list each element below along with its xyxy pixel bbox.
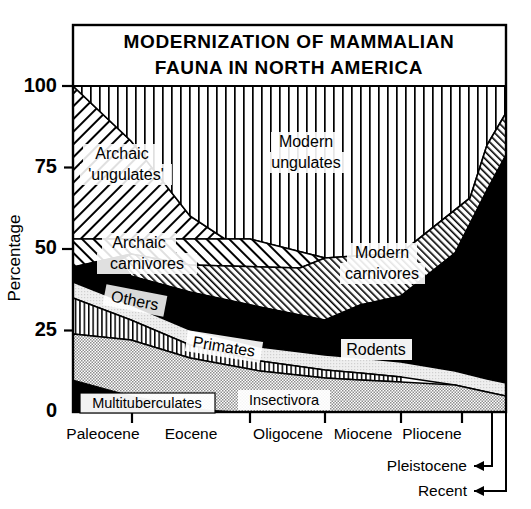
chart-title-line1: MODERNIZATION OF MAMMALIAN <box>124 31 455 52</box>
series-label-modern-carnivores-line1: Modern <box>355 244 409 261</box>
series-label-archaic-ungulates-line1: Archaic <box>95 145 148 162</box>
callout-label-pleistocene: Pleistocene <box>387 457 467 474</box>
callout-leader-recent <box>474 412 506 491</box>
label-modern-carnivores: Modern carnivores <box>340 243 425 284</box>
ytick-label-50: 50 <box>35 236 57 258</box>
left-arrow-icon-recent <box>474 486 484 496</box>
series-label-archaic-carnivores-line2: carnivores <box>110 255 184 272</box>
y-axis: 100 75 50 25 0 Percentage <box>5 74 73 421</box>
callout-leader-pleistocene <box>474 412 492 466</box>
series-label-rodents: Rodents <box>346 341 406 358</box>
x-axis: Paleocene Eocene Oligocene Miocene Plioc… <box>66 412 462 442</box>
series-label-modern-carnivores-line2: carnivores <box>345 265 419 282</box>
series-label-insectivora: Insectivora <box>249 392 320 408</box>
y-axis-title: Percentage <box>5 215 24 302</box>
series-label-archaic-ungulates-line2: 'ungulates' <box>88 166 164 183</box>
callout-pleistocene: Pleistocene <box>387 412 492 474</box>
ytick-label-25: 25 <box>35 318 57 340</box>
xtick-label-pliocene: Pliocene <box>402 425 461 442</box>
ytick-label-0: 0 <box>46 399 57 421</box>
xtick-label-oligocene: Oligocene <box>253 425 323 442</box>
figure-root: MODERNIZATION OF MAMMALIAN FAUNA IN NORT… <box>0 0 531 509</box>
label-rodents: Rodents <box>341 339 412 360</box>
xtick-label-miocene: Miocene <box>334 425 393 442</box>
series-label-modern-ungulates-line1: Modern <box>279 133 333 150</box>
chart-svg: MODERNIZATION OF MAMMALIAN FAUNA IN NORT… <box>0 0 531 509</box>
label-multituberculates: Multituberculates <box>80 393 215 413</box>
left-arrow-icon-pleistocene <box>474 461 484 471</box>
label-archaic-ungulates: Archaic 'ungulates' <box>80 144 172 185</box>
callout-label-recent: Recent <box>418 482 468 499</box>
xtick-label-paleocene: Paleocene <box>66 425 139 442</box>
label-insectivora: Insectivora <box>238 390 330 410</box>
series-label-archaic-carnivores-line1: Archaic <box>112 234 165 251</box>
series-label-modern-ungulates-line2: ungulates <box>271 154 340 171</box>
chart-title-line2: FAUNA IN NORTH AMERICA <box>155 57 423 78</box>
ytick-label-100: 100 <box>24 74 57 96</box>
series-label-multituberculates: Multituberculates <box>92 395 202 411</box>
xtick-label-eocene: Eocene <box>165 425 218 442</box>
ytick-label-75: 75 <box>35 155 57 177</box>
label-modern-ungulates: Modern ungulates <box>266 132 346 173</box>
